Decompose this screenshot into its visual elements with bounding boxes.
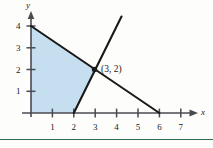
y-tick-label-2: 2 [16,65,21,74]
y-axis-arrowhead [28,11,35,19]
intersection-point-marker [92,67,97,72]
y-tick-label-1: 1 [16,87,21,96]
y-tick-label-4: 4 [16,22,21,31]
y-tick-label-3: 3 [16,43,21,52]
x-tick-label-4: 4 [114,123,119,132]
x-tick-label-7: 7 [179,123,184,132]
x-tick-label-5: 5 [136,123,141,132]
x-tick-label-1: 1 [50,123,55,132]
x-tick-label-3: 3 [93,123,98,132]
x-tick-label-6: 6 [157,123,162,132]
x-axis-label: x [201,108,205,117]
intersection-point-label: (3, 2) [101,65,122,75]
feasible-region-fill [31,26,95,113]
y-axis-label: y [26,1,30,10]
graph-figure: 1 2 3 4 1 2 3 4 5 6 7 y x (3, 2) [0,0,213,148]
x-tick-label-2: 2 [72,123,77,132]
x-axis-arrowhead [190,110,199,117]
